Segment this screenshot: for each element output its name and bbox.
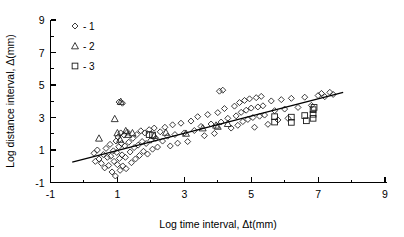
regression-trendline xyxy=(72,92,343,162)
marker-diamond xyxy=(178,120,184,126)
marker-diamond xyxy=(122,154,128,160)
series-2 xyxy=(96,98,232,142)
marker-square xyxy=(310,115,316,121)
marker-diamond xyxy=(111,158,117,164)
y-tick-label: 7 xyxy=(39,47,45,59)
marker-diamond xyxy=(123,166,129,172)
marker-diamond xyxy=(102,165,108,171)
marker-diamond xyxy=(92,158,98,164)
marker-diamond xyxy=(116,155,122,161)
marker-diamond xyxy=(265,121,271,127)
marker-diamond xyxy=(221,106,227,112)
legend-label-1: - 1 xyxy=(83,21,95,32)
legend-label-2: - 2 xyxy=(83,41,95,52)
marker-diamond xyxy=(170,122,176,128)
marker-diamond xyxy=(255,104,261,110)
marker-diamond xyxy=(94,147,100,153)
marker-diamond xyxy=(268,98,274,104)
x-tick-label: -1 xyxy=(46,188,55,200)
marker-diamond xyxy=(235,122,241,128)
marker-diamond xyxy=(302,94,308,100)
marker-diamond xyxy=(116,144,122,150)
marker-diamond xyxy=(233,113,239,119)
marker-diamond xyxy=(188,118,194,124)
marker-diamond xyxy=(201,133,207,139)
marker-diamond xyxy=(103,145,109,151)
marker-diamond xyxy=(107,141,113,147)
marker-diamond xyxy=(205,112,211,118)
marker-diamond xyxy=(195,114,201,120)
marker-diamond xyxy=(167,143,173,149)
marker-diamond xyxy=(260,103,266,109)
marker-diamond xyxy=(114,162,120,168)
y-tick-label: 1 xyxy=(39,144,45,156)
y-tick-label: 3 xyxy=(39,112,45,124)
plot-area: -113579-113579 - 1- 2- 3 Log time interv… xyxy=(0,0,404,237)
marker-triangle xyxy=(111,115,118,121)
x-tick-label: 5 xyxy=(248,188,254,200)
marker-diamond xyxy=(295,104,301,110)
legend-marker-3 xyxy=(72,63,78,69)
marker-diamond xyxy=(162,124,168,130)
x-tick-label: 7 xyxy=(315,188,321,200)
y-tick-label: 5 xyxy=(39,79,45,91)
marker-diamond xyxy=(108,153,114,159)
legend: - 1- 2- 3 xyxy=(72,21,96,72)
marker-diamond xyxy=(216,88,222,94)
y-tick-label: -1 xyxy=(35,177,44,189)
x-tick-label: 1 xyxy=(114,188,120,200)
marker-diamond xyxy=(91,150,97,156)
marker-diamond xyxy=(106,162,112,168)
marker-diamond xyxy=(258,93,264,99)
scatter-chart-figure: -113579-113579 - 1- 2- 3 Log time interv… xyxy=(0,0,404,237)
legend-label-3: - 3 xyxy=(83,61,95,72)
marker-diamond xyxy=(175,140,181,146)
legend-marker-1 xyxy=(72,23,78,29)
marker-diamond xyxy=(231,103,237,109)
marker-diamond xyxy=(278,97,284,103)
marker-diamond xyxy=(211,130,217,136)
marker-diamond xyxy=(157,129,163,135)
series-1 xyxy=(91,87,336,179)
marker-diamond xyxy=(185,139,191,145)
x-tick-label: 3 xyxy=(181,188,187,200)
data-series-group xyxy=(91,87,336,179)
y-tick-label: 9 xyxy=(39,14,45,26)
x-tick-label: 9 xyxy=(382,188,388,200)
legend-marker-2 xyxy=(72,43,79,49)
marker-diamond xyxy=(253,95,259,101)
marker-diamond xyxy=(127,149,133,155)
marker-diamond xyxy=(220,87,226,93)
marker-diamond xyxy=(215,110,221,116)
marker-diamond xyxy=(288,95,294,101)
marker-diamond xyxy=(252,124,258,130)
y-axis-title: Log distance interval, Δ(mm) xyxy=(4,34,16,168)
x-axis-title: Log time interval, Δt(mm) xyxy=(159,218,276,230)
marker-triangle xyxy=(96,135,103,141)
